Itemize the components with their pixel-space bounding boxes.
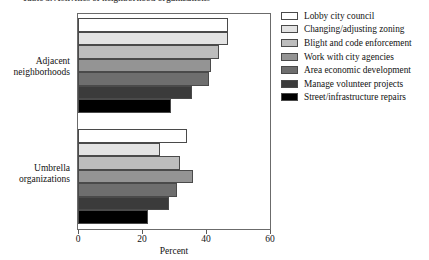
chart-title-strip: Table 3. Activities of neighborhood orga… — [0, 0, 429, 7]
legend-item-label: Street/infrastructure repairs — [304, 92, 406, 102]
legend-swatch-icon — [281, 80, 298, 88]
legend-item-label: Area economic development — [304, 65, 411, 75]
bar — [78, 156, 180, 170]
bar — [78, 170, 193, 184]
legend-item-label: Work with city agencies — [304, 52, 394, 62]
x-axis-tick-label: 0 — [76, 234, 81, 244]
category-label-line-1: Umbrella — [0, 163, 70, 174]
x-axis-tick-labels: 0204060 — [0, 234, 429, 246]
bar — [78, 129, 187, 143]
legend-item[interactable]: Changing/adjusting zoning — [281, 23, 429, 37]
bar — [78, 18, 228, 32]
legend-item[interactable]: Street/infrastructure repairs — [281, 91, 429, 105]
bar — [78, 183, 177, 197]
x-axis-tick-label: 40 — [201, 234, 211, 244]
bar — [78, 197, 169, 211]
x-axis-tick-label: 20 — [137, 234, 147, 244]
bar — [78, 86, 192, 100]
legend-item-label: Blight and code enforcement — [304, 38, 412, 48]
legend-swatch-icon — [281, 93, 298, 101]
legend-swatch-icon — [281, 12, 298, 20]
legend-item[interactable]: Lobby city council — [281, 9, 429, 23]
category-label-line-1: Adjacent — [0, 56, 70, 67]
legend-item[interactable]: Blight and code enforcement — [281, 36, 429, 50]
legend-item-label: Changing/adjusting zoning — [304, 24, 404, 34]
category-label-line-2: organizations — [0, 174, 70, 185]
legend-swatch-icon — [281, 39, 298, 47]
bar — [78, 99, 171, 113]
legend-item-label: Manage volunteer projects — [304, 79, 403, 89]
chart-title: Table 3. Activities of neighborhood orga… — [22, 0, 210, 3]
bar — [78, 45, 219, 59]
bar — [78, 59, 211, 73]
x-axis-tick-label: 60 — [265, 234, 275, 244]
category-label-adjacent-neighborhoods: Adjacent neighborhoods — [0, 56, 70, 78]
x-axis-title: Percent — [77, 246, 271, 256]
category-label-umbrella-organizations: Umbrella organizations — [0, 163, 70, 185]
bar — [78, 210, 148, 224]
bar — [78, 32, 228, 46]
legend-swatch-icon — [281, 66, 298, 74]
legend-item[interactable]: Area economic development — [281, 63, 429, 77]
legend-item-label: Lobby city council — [304, 11, 374, 21]
legend-item[interactable]: Work with city agencies — [281, 50, 429, 64]
bars-layer — [78, 14, 270, 229]
category-label-line-2: neighborhoods — [0, 67, 70, 78]
legend-item[interactable]: Manage volunteer projects — [281, 77, 429, 91]
legend-swatch-icon — [281, 53, 298, 61]
chart-legend: Lobby city councilChanging/adjusting zon… — [281, 9, 429, 104]
legend-swatch-icon — [281, 25, 298, 33]
bar — [78, 143, 160, 157]
bar — [78, 72, 209, 86]
